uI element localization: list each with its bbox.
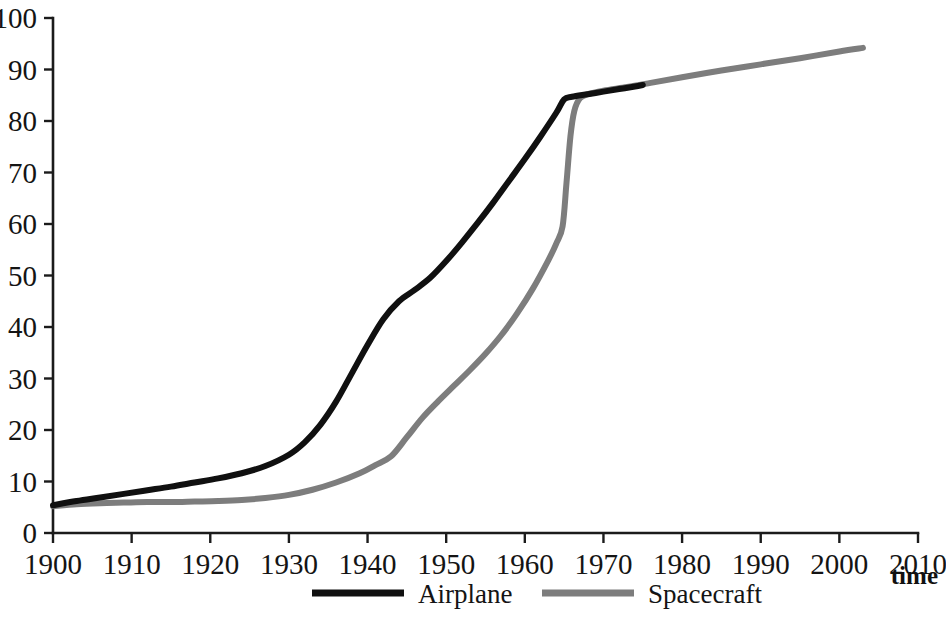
- y-tick-label: 50: [8, 260, 37, 292]
- x-tick-label: 1980: [653, 548, 711, 580]
- series-lines: [53, 48, 863, 506]
- y-tick-label: 10: [8, 466, 37, 498]
- y-tick-label: 70: [8, 157, 37, 189]
- legend-label-airplane: Airplane: [418, 579, 512, 609]
- y-tick-label: 60: [8, 208, 37, 240]
- x-tick-label: 1940: [339, 548, 397, 580]
- y-tick-label: 40: [8, 311, 37, 343]
- series-line-spacecraft: [53, 48, 863, 506]
- line-chart: 0102030405060708090100 19001910192019301…: [0, 0, 946, 619]
- y-tick-label: 100: [0, 2, 37, 34]
- x-tick-label: 1960: [496, 548, 554, 580]
- x-tick-label: 1950: [417, 548, 475, 580]
- y-tick-label: 90: [8, 54, 37, 86]
- series-line-airplane: [53, 85, 643, 505]
- x-tick-label: 1990: [732, 548, 790, 580]
- x-tick-label: 2000: [810, 548, 868, 580]
- x-tick-label: 1970: [574, 548, 632, 580]
- y-tick-label: 20: [8, 414, 37, 446]
- y-tick-label: 0: [23, 517, 38, 549]
- x-tick-label: 1920: [181, 548, 239, 580]
- x-axis: 1900191019201930194019501960197019801990…: [24, 533, 946, 580]
- x-axis-title: time: [891, 562, 938, 589]
- y-axis: 0102030405060708090100: [0, 2, 53, 549]
- x-tick-label: 1900: [24, 548, 82, 580]
- y-tick-label: 80: [8, 105, 37, 137]
- legend-label-spacecraft: Spacecraft: [648, 579, 762, 609]
- x-tick-label: 1930: [260, 548, 318, 580]
- chart-container: 0102030405060708090100 19001910192019301…: [0, 0, 946, 619]
- x-tick-label: 1910: [103, 548, 161, 580]
- chart-legend: AirplaneSpacecraft: [312, 579, 762, 609]
- y-tick-label: 30: [8, 363, 37, 395]
